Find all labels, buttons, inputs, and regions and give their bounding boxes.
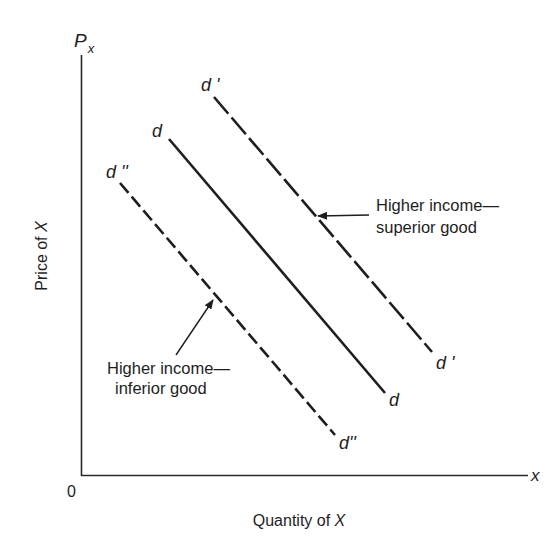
curve-d bbox=[169, 139, 385, 393]
curve-d-double-prime bbox=[120, 183, 335, 435]
curve-d-bottom-label: d bbox=[389, 390, 400, 410]
y-axis-label: Price of X bbox=[33, 220, 50, 291]
y-axis-subscript: x bbox=[87, 41, 95, 56]
inferior-good-arrow bbox=[176, 300, 213, 355]
superior-good-arrow bbox=[318, 215, 369, 216]
origin-label: 0 bbox=[67, 483, 76, 500]
demand-shift-diagram: Px Price of X x 0 Quantity of X d ' d ' … bbox=[0, 0, 558, 539]
inferior-annotation-line2: inferior good bbox=[115, 379, 207, 397]
x-axis-label: Quantity of X bbox=[253, 512, 347, 529]
x-axis-symbol: x bbox=[530, 466, 540, 485]
superior-annotation-line1: Higher income— bbox=[376, 196, 499, 214]
superior-good-annotation: Higher income— superior good bbox=[376, 196, 503, 236]
superior-annotation-line2: superior good bbox=[376, 218, 477, 236]
curve-d-prime-top-label: d ' bbox=[201, 75, 220, 95]
inferior-annotation-line1: Higher income— bbox=[107, 359, 230, 377]
y-axis-symbol: Px bbox=[74, 30, 95, 56]
diagram-canvas: Px Price of X x 0 Quantity of X d ' d ' … bbox=[0, 0, 558, 539]
curve-d-top-label: d bbox=[152, 121, 163, 141]
inferior-good-annotation: Higher income— inferior good bbox=[107, 359, 234, 397]
curve-d-double-prime-top-label: d '' bbox=[106, 162, 128, 182]
curve-d-double-prime-bottom-label: d'' bbox=[339, 433, 356, 453]
curve-d-prime-bottom-label: d ' bbox=[436, 353, 455, 373]
